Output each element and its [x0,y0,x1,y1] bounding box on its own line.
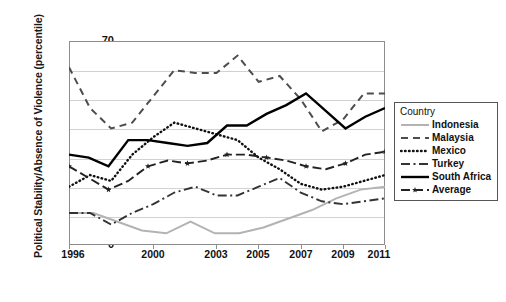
dashdot-line-swatch [400,158,430,169]
legend-item-label: Malaysia [432,132,474,143]
legend-item-average[interactable]: Average [400,183,493,196]
x-tick-label-2003: 2003 [204,248,227,260]
series-lines [69,41,385,245]
series-marker-star [224,152,230,158]
series-marker-star [145,163,151,169]
series-marker-star [343,160,349,166]
x-tick-label-2011: 2011 [368,248,391,260]
legend-item-mexico[interactable]: Mexico [400,144,493,157]
legend-item-malaysia[interactable]: Malaysia [400,131,493,144]
dotted-line-swatch [400,145,430,156]
x-tick-label-2000: 2000 [141,248,164,260]
legend-item-label: Turkey [432,158,464,169]
dash-star-line-swatch [400,184,430,195]
series-line-turkey [69,178,385,225]
legend-item-label: Indonesia [432,119,479,130]
solid-black-line-swatch [400,171,430,182]
chart-figure: Political Stability/Absence of Violence … [0,0,506,302]
x-tick-label-2009: 2009 [331,248,354,260]
x-tick-label-1996: 1996 [61,248,84,260]
series-marker-star [264,154,270,160]
chart-legend: Country IndonesiaMalaysiaMexicoTurkeySou… [394,102,498,201]
series-line-indonesia [69,187,385,234]
legend-item-south-africa[interactable]: South Africa [400,170,493,183]
x-tick-label-2007: 2007 [289,248,312,260]
legend-item-turkey[interactable]: Turkey [400,157,493,170]
series-marker-star [185,160,191,166]
solid-gray-line-swatch [400,119,430,130]
dashed-line-swatch [400,132,430,143]
legend-item-indonesia[interactable]: Indonesia [400,118,493,131]
legend-item-label: South Africa [432,171,491,182]
y-axis-title: Political Stability/Absence of Violence … [32,6,44,266]
legend-title: Country [400,106,493,117]
legend-item-label: Mexico [432,145,466,156]
legend-item-label: Average [432,184,471,195]
x-tick-label-2005: 2005 [246,248,269,260]
series-marker-star [303,163,309,169]
